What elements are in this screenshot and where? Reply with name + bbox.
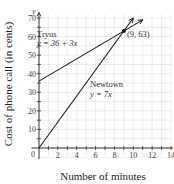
y-tick-label: 10 bbox=[28, 125, 36, 134]
x-tick-label: 6 bbox=[94, 151, 98, 160]
series-label-newtown: Newtown bbox=[90, 79, 124, 89]
x-tick-label: 8 bbox=[112, 151, 116, 160]
intersection-point bbox=[122, 29, 126, 33]
intersection-label: (9, 63) bbox=[127, 29, 150, 39]
x-tick-label: 12 bbox=[148, 151, 156, 160]
origin-label: 0 bbox=[31, 150, 35, 159]
y-tick-label: 60 bbox=[28, 33, 36, 42]
x-tick-label: 10 bbox=[129, 151, 137, 160]
chart: 246810121410203040506070 Tryus y = 36 + … bbox=[0, 0, 174, 184]
x-axis-label: Number of minutes bbox=[60, 170, 146, 182]
series-equation-newtown: y = 7x bbox=[89, 89, 112, 99]
series-equation-tryus: y = 36 + 3x bbox=[36, 38, 77, 48]
x-tick-label: 14 bbox=[167, 151, 174, 160]
y-axis-label: Cost of phone call (in cents) bbox=[2, 22, 15, 147]
y-tick-label: 50 bbox=[28, 51, 36, 60]
y-tick-label: 40 bbox=[28, 70, 36, 79]
x-tick-label: 2 bbox=[56, 151, 60, 160]
y-tick-label: 20 bbox=[28, 107, 36, 116]
y-axis-variable: y bbox=[31, 7, 36, 16]
y-tick-label: 30 bbox=[28, 88, 36, 97]
x-tick-label: 4 bbox=[75, 151, 79, 160]
